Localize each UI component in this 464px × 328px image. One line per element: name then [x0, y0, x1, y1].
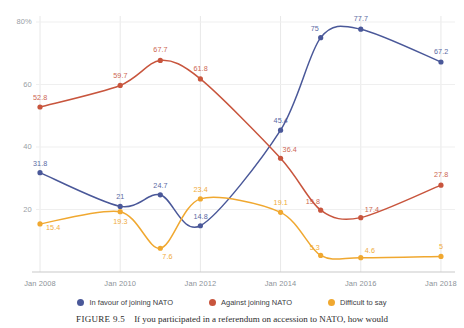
series-1 [37, 26, 443, 228]
data-point-marker [278, 156, 283, 161]
data-point-marker [358, 255, 363, 260]
series-3 [37, 196, 443, 260]
data-point-marker [158, 58, 163, 63]
data-label: 19.3 [113, 217, 127, 226]
x-axis-tick: Jan 2012 [172, 279, 228, 288]
data-label: 67.2 [434, 47, 448, 56]
data-label: 52.8 [33, 93, 47, 102]
data-label: 24.7 [153, 181, 167, 190]
y-axis-tick: 80% [6, 17, 32, 26]
data-label: 36.4 [283, 145, 297, 154]
series-2 [37, 58, 443, 220]
legend-swatch-icon [77, 299, 84, 306]
data-label: 59.7 [113, 71, 127, 80]
series-line [40, 197, 441, 259]
data-point-marker [37, 170, 42, 175]
legend-swatch-icon [209, 299, 216, 306]
data-label: 4.6 [365, 246, 375, 255]
data-point-marker [198, 196, 203, 201]
data-point-marker [118, 83, 123, 88]
data-point-marker [358, 215, 363, 220]
data-point-marker [37, 104, 42, 109]
x-axis-tick: Jan 2014 [253, 279, 309, 288]
chart-legend: In favour of joining NATOAgainst joining… [0, 294, 464, 310]
data-point-marker [318, 208, 323, 213]
data-label: 14.8 [193, 212, 207, 221]
figure-caption-text: If you participated in a referendum on a… [134, 314, 388, 324]
data-point-marker [318, 253, 323, 258]
figure-number: FIGURE 9.5 [76, 314, 125, 324]
data-label: 75 [311, 24, 319, 33]
data-label: 19.1 [274, 198, 288, 207]
x-axis-tick: Jan 2016 [333, 279, 389, 288]
data-label: 45.4 [274, 116, 288, 125]
nato-referendum-line-chart: 20406080% Jan 2008Jan 2010Jan 2012Jan 20… [0, 0, 464, 328]
legend-swatch-icon [328, 299, 335, 306]
x-axis-tick: Jan 2008 [12, 279, 68, 288]
data-point-marker [358, 27, 363, 32]
data-label: 15.4 [46, 223, 60, 232]
x-axis-tick: Jan 2018 [413, 279, 464, 288]
data-label: 7.6 [162, 252, 172, 261]
legend-item-2[interactable]: Against joining NATO [209, 298, 292, 307]
legend-label: Difficult to say [340, 298, 387, 307]
data-label: 5.3 [310, 243, 320, 252]
data-label: 19.8 [306, 197, 320, 206]
data-point-marker [438, 183, 443, 188]
data-point-marker [158, 246, 163, 251]
data-point-marker [438, 254, 443, 259]
data-point-marker [158, 192, 163, 197]
data-point-marker [318, 35, 323, 40]
legend-label: In favour of joining NATO [89, 298, 173, 307]
data-point-marker [37, 221, 42, 226]
data-label: 5 [439, 242, 443, 251]
data-point-marker [198, 223, 203, 228]
data-label: 17.4 [365, 205, 379, 214]
data-label: 61.8 [193, 64, 207, 73]
data-label: 67.7 [153, 45, 167, 54]
data-point-marker [278, 210, 283, 215]
data-point-marker [118, 209, 123, 214]
data-point-marker [198, 76, 203, 81]
y-axis-tick: 60 [6, 80, 32, 89]
data-point-marker [118, 204, 123, 209]
data-label: 23.4 [193, 185, 207, 194]
y-axis-tick: 40 [6, 142, 32, 151]
legend-item-3[interactable]: Difficult to say [328, 298, 387, 307]
series-line [40, 26, 441, 227]
data-point-marker [278, 128, 283, 133]
legend-item-1[interactable]: In favour of joining NATO [77, 298, 173, 307]
data-label: 31.8 [33, 159, 47, 168]
x-axis-tick: Jan 2010 [92, 279, 148, 288]
chart-plot-area [0, 0, 464, 328]
y-axis-tick: 20 [6, 205, 32, 214]
data-point-marker [438, 59, 443, 64]
data-label: 77.7 [354, 14, 368, 23]
legend-label: Against joining NATO [221, 298, 292, 307]
figure-caption: FIGURE 9.5 If you participated in a refe… [0, 314, 464, 324]
data-label: 21 [116, 192, 124, 201]
data-label: 27.8 [434, 170, 448, 179]
